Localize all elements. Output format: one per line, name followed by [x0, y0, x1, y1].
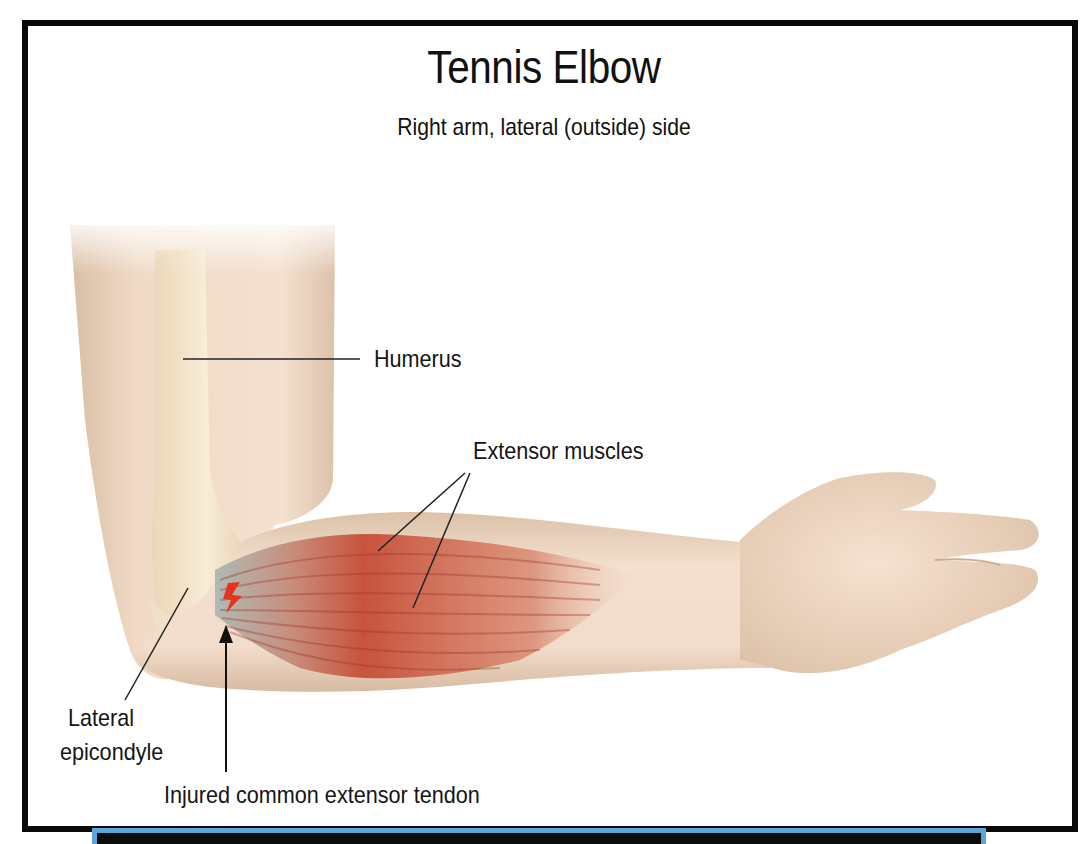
hand [740, 472, 1039, 673]
label-humerus: Humerus [374, 344, 462, 374]
label-lateral-epicondyle-line2: epicondyle [60, 737, 163, 767]
label-injured-tendon: Injured common extensor tendon [164, 780, 480, 810]
label-lateral-epicondyle-line1: Lateral [68, 703, 134, 733]
label-extensor-muscles: Extensor muscles [473, 436, 643, 466]
arm-illustration [0, 0, 1088, 844]
bottom-banner-strip [92, 828, 986, 844]
